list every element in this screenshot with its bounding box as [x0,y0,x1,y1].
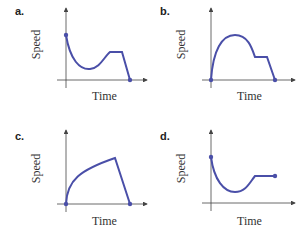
graph-a [57,8,147,88]
speed-curve [66,158,130,204]
x-axis-label: Time [237,89,262,104]
x-axis-label: Time [92,214,117,229]
x-axis-label: Time [237,214,262,229]
y-axis-label: Speed [29,30,44,59]
start-point [209,155,213,159]
graphs-canvas [0,0,305,241]
panel-label: c. [15,130,24,142]
panel-label: b. [160,5,170,17]
start-point [64,33,68,37]
speed-curve [66,35,130,80]
y-axis-label: Speed [174,30,189,59]
graph-d [202,130,295,211]
start-point [64,202,68,206]
graph-c [57,130,147,212]
end-point [128,78,132,82]
x-axis-label: Time [92,89,117,104]
end-point [273,174,277,178]
speed-curve [211,35,275,80]
panel-label: d. [160,130,170,142]
graph-b [202,8,295,88]
y-axis-label: Speed [29,154,44,183]
end-point [273,78,277,82]
panel-label: a. [15,5,24,17]
start-point [209,78,213,82]
y-axis-label: Speed [174,154,189,183]
speed-curve [211,157,275,192]
end-point [128,202,132,206]
